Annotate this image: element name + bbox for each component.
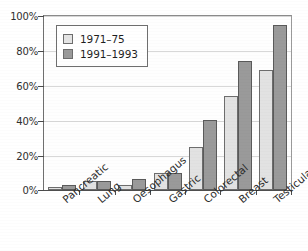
legend-item: 1971–75 <box>63 31 138 46</box>
y-axis-tick-label: 0% <box>0 185 38 196</box>
legend: 1971–75 1991–1993 <box>56 25 148 67</box>
bar <box>48 187 62 190</box>
bar-chart: 100% 80% 60% 40% 20% 0% PancreaticLungOe… <box>0 0 308 251</box>
y-axis-tick-label: 60% <box>0 81 38 92</box>
bar <box>259 70 273 190</box>
y-axis-tick-label: 20% <box>0 151 38 162</box>
y-axis-tick-label: 80% <box>0 46 38 57</box>
legend-swatch-icon <box>63 49 73 59</box>
y-tick-mark <box>38 190 44 191</box>
legend-item: 1991–1993 <box>63 46 138 61</box>
legend-item-label: 1991–1993 <box>80 48 138 60</box>
legend-item-label: 1971–75 <box>80 33 125 45</box>
y-axis-tick-label: 40% <box>0 116 38 127</box>
bar <box>273 25 287 190</box>
y-axis-tick-label: 100% <box>0 11 38 22</box>
bar <box>203 120 217 190</box>
legend-swatch-icon <box>63 34 73 44</box>
